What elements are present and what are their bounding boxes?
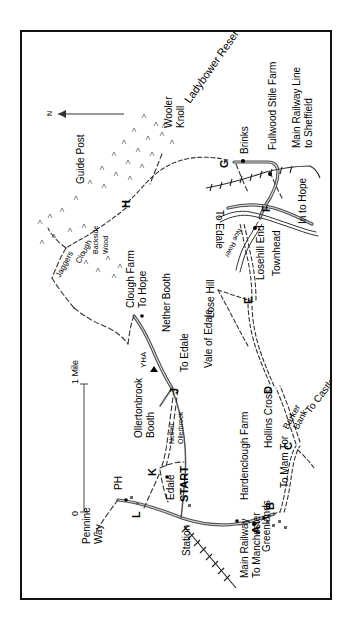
label-to-edale-upper: To Edale xyxy=(214,210,225,249)
label-nether: Nether xyxy=(168,422,175,444)
label-fullwood-stile-farm: Fullwood Stile Farm xyxy=(267,62,278,150)
label-clough-farm: Clough Farm xyxy=(125,250,136,308)
label-main-railway: Main Railway xyxy=(239,519,250,578)
label-yha: YHA xyxy=(139,351,148,368)
label-ollerbrook: Ollerbrook xyxy=(177,411,184,444)
map-page: N 1 Mile 0 Ladybower Reservoir Wooler Kn… xyxy=(0,0,355,632)
label-brinks: Brinks xyxy=(239,126,250,154)
label-backside: Backside xyxy=(92,225,99,254)
label-in-to-hope: In to Hope xyxy=(297,177,308,224)
map-canvas[interactable]: N 1 Mile 0 Ladybower Reservoir Wooler Kn… xyxy=(22,32,334,602)
waypoint-h[interactable]: H xyxy=(120,200,132,208)
scale-end-label: 1 Mile xyxy=(70,360,80,384)
label-main-railway-line: Main Railway Line xyxy=(291,66,302,148)
label-station: Station xyxy=(181,525,192,556)
label-ollertonbrook: Ollertonbrook xyxy=(133,377,144,438)
waypoint-g[interactable]: G xyxy=(218,159,230,168)
footpath-jaggers-clough xyxy=(74,308,134,344)
label-hardenclough-farm: Hardenclough Farm xyxy=(239,412,250,500)
label-lose-hill: Lose Hill xyxy=(205,280,216,318)
label-to-edale-lower: To Edale xyxy=(179,333,190,372)
waypoint-f[interactable]: F xyxy=(260,205,272,212)
footpath-fullwood-stile xyxy=(236,164,282,198)
footpath-d-to-e xyxy=(248,302,274,386)
scale-bar xyxy=(80,384,88,512)
label-booth: Booth xyxy=(145,412,156,438)
label-guide-post: Guide Post xyxy=(75,134,86,184)
waypoint-l[interactable]: L xyxy=(130,511,142,518)
footpath-g-to-h xyxy=(66,157,228,248)
yha-marker-icon xyxy=(150,366,158,372)
label-clough: Clough xyxy=(74,238,94,265)
label-to-hope: To Hope xyxy=(137,270,148,308)
label-losehill-end: Losehill End xyxy=(255,226,266,280)
label-start: START xyxy=(178,466,190,502)
label-edale: Edale xyxy=(165,474,176,500)
label-to-sheffield: to Sheffield xyxy=(303,98,314,148)
waypoint-c[interactable]: C xyxy=(282,442,294,450)
scale-start-label: 0 xyxy=(70,511,80,516)
label-wood: Wood xyxy=(102,236,109,254)
footpath-wooler-knoll xyxy=(150,154,162,184)
label-nether-booth: Nether Booth xyxy=(161,273,172,332)
waypoint-d[interactable]: D xyxy=(262,386,274,394)
waypoint-k[interactable]: K xyxy=(146,468,158,476)
label-knoll: Knoll xyxy=(175,106,186,128)
waypoint-j[interactable]: J xyxy=(168,388,180,394)
label-hollins-cross: Hollins Cross xyxy=(263,389,274,448)
north-label: N xyxy=(46,111,53,116)
waypoint-a[interactable]: A xyxy=(250,526,262,534)
label-ladybower-reservoir: Ladybower Reservoir xyxy=(182,32,252,105)
waypoint-b[interactable]: B xyxy=(264,502,276,510)
label-wooler: Wooler xyxy=(163,96,174,128)
label-to-castleton: To Castleton xyxy=(303,365,330,416)
label-way: Way xyxy=(93,524,104,544)
map-frame-border: N 1 Mile 0 Ladybower Reservoir Wooler Kn… xyxy=(20,30,332,600)
label-pennine: Pennine xyxy=(81,507,92,544)
north-arrow-icon xyxy=(58,110,124,118)
label-ph: PH xyxy=(113,476,124,490)
label-townhead: Townhead xyxy=(271,230,282,276)
label-jaggers: Jaggers xyxy=(54,250,75,279)
waypoint-e[interactable]: E xyxy=(242,297,254,304)
